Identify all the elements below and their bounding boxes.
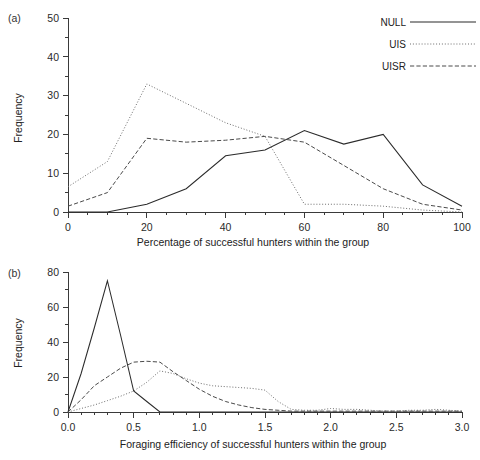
series-line-uisr <box>68 136 462 210</box>
legend-item-null-label: NULL <box>380 17 406 28</box>
figure-container: (a) 01020304050 020406080100 Frequency P… <box>0 0 480 460</box>
panel-b-axes: 020406080 0.00.51.01.52.02.53.0 <box>47 266 469 433</box>
x-tick-label: 3.0 <box>455 421 470 433</box>
x-tick-label: 0 <box>65 221 71 233</box>
y-tick-label: 50 <box>47 12 59 24</box>
y-tick-label: 20 <box>47 371 59 383</box>
x-tick-label: 1.0 <box>192 421 207 433</box>
series-line-uis <box>68 84 462 212</box>
series-line-uis <box>68 371 462 412</box>
panel-a-x-axis-title: Percentage of successful hunters within … <box>137 236 369 248</box>
legend-item-uis-label: UIS <box>389 39 406 50</box>
panel-b-series <box>68 281 462 412</box>
y-tick-label: 10 <box>47 167 59 179</box>
x-tick-label: 2.0 <box>323 421 338 433</box>
x-tick-label: 0.5 <box>126 421 141 433</box>
x-tick-label: 2.5 <box>389 421 404 433</box>
series-line-null <box>68 131 462 212</box>
y-tick-label: 0 <box>53 206 59 218</box>
y-tick-label: 40 <box>47 336 59 348</box>
panel-b-label: (b) <box>8 267 21 279</box>
y-tick-label: 40 <box>47 51 59 63</box>
y-tick-label: 80 <box>47 266 59 278</box>
y-tick-label: 30 <box>47 89 59 101</box>
panel-b-y-axis-title: Frequency <box>12 317 24 367</box>
legend-item-uisr-label: UISR <box>382 61 406 72</box>
y-tick-label: 60 <box>47 301 59 313</box>
y-tick-label: 0 <box>53 406 59 418</box>
x-tick-label: 20 <box>141 221 153 233</box>
x-tick-label: 40 <box>220 221 232 233</box>
panel-b-x-axis-title: Foraging efficiency of successful hunter… <box>120 438 387 450</box>
x-tick-label: 80 <box>377 221 389 233</box>
panel-b: (b) 020406080 0.00.51.01.52.02.53.0 Freq… <box>8 266 469 450</box>
y-tick-label: 20 <box>47 128 59 140</box>
x-tick-label: 60 <box>299 221 311 233</box>
x-tick-label: 1.5 <box>258 421 273 433</box>
panel-a-y-axis-title: Frequency <box>12 92 24 142</box>
x-tick-label: 0.0 <box>61 421 76 433</box>
panel-a-series <box>68 84 462 212</box>
series-line-uisr <box>68 361 462 412</box>
scientific-figure: (a) 01020304050 020406080100 Frequency P… <box>0 0 480 460</box>
panel-a-axes: 01020304050 020406080100 <box>47 12 471 233</box>
x-tick-label: 100 <box>453 221 471 233</box>
legend: NULL UIS UISR <box>380 17 476 72</box>
panel-a-label: (a) <box>8 12 21 24</box>
series-line-null <box>68 281 462 412</box>
